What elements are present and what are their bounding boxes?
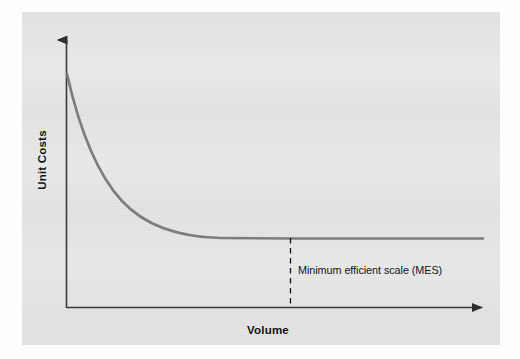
x-axis-label: Volume xyxy=(247,324,289,336)
figure-container: Unit Costs Volume Minimum efficient scal… xyxy=(0,0,520,359)
y-axis-label: Unit Costs xyxy=(36,130,48,190)
chart-canvas xyxy=(0,0,520,359)
cost-curve xyxy=(67,74,483,239)
mes-annotation-label: Minimum efficient scale (MES) xyxy=(298,264,442,276)
